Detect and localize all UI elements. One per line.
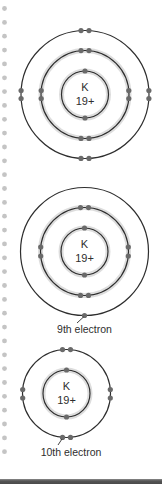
margin-dot	[2, 186, 7, 191]
electron	[78, 136, 83, 141]
electron	[82, 225, 87, 230]
margin-dot	[2, 394, 7, 399]
margin-dot	[2, 89, 7, 94]
electron	[86, 156, 91, 161]
electron	[60, 347, 65, 352]
margin-dot	[2, 269, 7, 274]
margin-dot	[2, 200, 7, 205]
margin-dot	[2, 339, 7, 344]
margin-dot	[2, 283, 7, 288]
electron	[78, 28, 83, 33]
electron	[82, 115, 87, 120]
margin-dot	[2, 408, 7, 413]
margin-dot	[2, 20, 7, 25]
nucleus-symbol: K	[63, 380, 71, 392]
electron	[146, 88, 151, 93]
tenth-electron-leader-line	[58, 439, 62, 445]
electron	[86, 48, 91, 53]
potassium-shell-diagrams: K 19+ K 19+ 9th electron	[0, 0, 162, 484]
electron	[39, 96, 44, 101]
nucleus-symbol: K	[81, 81, 89, 93]
nucleus-charge: 19+	[57, 394, 76, 406]
electron	[78, 205, 83, 210]
margin-dot	[2, 366, 7, 371]
margin-dot	[2, 255, 7, 260]
electron	[19, 96, 24, 101]
margin-dot-column	[2, 6, 7, 454]
atom-diagram-2: K 19+ 9th electron	[21, 188, 149, 336]
ninth-electron-label: 9th electron	[57, 323, 112, 335]
margin-dot	[2, 297, 7, 302]
nucleus-charge: 19+	[76, 95, 95, 107]
margin-dot	[2, 103, 7, 108]
margin-dot	[2, 145, 7, 150]
electron	[126, 88, 131, 93]
margin-dot	[2, 48, 7, 53]
nucleus-charge: 19+	[75, 252, 94, 264]
electron	[19, 88, 24, 93]
margin-dot	[2, 131, 7, 136]
electron	[86, 205, 91, 210]
electron	[38, 253, 43, 258]
tenth-electron-label: 10th electron	[41, 446, 102, 458]
electron	[82, 68, 87, 73]
electron	[39, 88, 44, 93]
electron	[60, 435, 65, 440]
electron	[64, 367, 69, 372]
margin-dot	[2, 6, 7, 11]
atom-diagram-1: K 19+	[19, 28, 152, 161]
electron	[126, 253, 131, 258]
margin-dot	[2, 75, 7, 80]
margin-dot	[2, 242, 7, 247]
margin-dot	[2, 436, 7, 441]
electron	[146, 96, 151, 101]
electron	[20, 395, 25, 400]
margin-dot	[2, 380, 7, 385]
margin-dot	[2, 311, 7, 316]
electron	[126, 96, 131, 101]
electron	[68, 347, 73, 352]
electron	[78, 156, 83, 161]
margin-dot	[2, 172, 7, 177]
margin-dot	[2, 422, 7, 427]
margin-dot	[2, 228, 7, 233]
atom-diagram-3: K 19+ 10th electron	[20, 347, 113, 458]
electron	[82, 272, 87, 277]
electron	[108, 395, 113, 400]
margin-dot	[2, 352, 7, 357]
electron	[78, 293, 83, 298]
electron	[38, 244, 43, 249]
tenth-electron	[68, 435, 73, 440]
electron	[86, 136, 91, 141]
margin-dot	[2, 325, 7, 330]
electron	[78, 48, 83, 53]
electron	[20, 387, 25, 392]
margin-dot	[2, 34, 7, 39]
margin-dot	[2, 158, 7, 163]
electron	[86, 293, 91, 298]
electron	[108, 387, 113, 392]
electron	[64, 414, 69, 419]
nucleus-symbol: K	[81, 238, 89, 250]
electron	[126, 244, 131, 249]
margin-dot	[2, 214, 7, 219]
electron	[86, 28, 91, 33]
margin-dot	[2, 117, 7, 122]
margin-dot	[2, 62, 7, 67]
bottom-bar	[0, 479, 162, 484]
margin-dot	[2, 449, 7, 454]
